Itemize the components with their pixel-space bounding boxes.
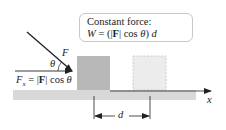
- angle-arc: [58, 62, 62, 71]
- force-label: F: [62, 47, 68, 58]
- ground-surface: [13, 90, 196, 100]
- work-formula: W = (|F| cos θ) d: [87, 28, 192, 40]
- fx-formula-label: Fx = |F| cos θ: [16, 74, 72, 88]
- callout-title: Constant force:: [87, 16, 192, 28]
- x-axis-label: x: [207, 94, 212, 105]
- displacement-label: d: [118, 109, 123, 120]
- work-formula-callout: Constant force: W = (|F| cos θ) d: [79, 13, 193, 42]
- box-final-position: [133, 56, 166, 90]
- box-initial-position: [77, 56, 110, 90]
- angle-label: θ: [50, 58, 55, 69]
